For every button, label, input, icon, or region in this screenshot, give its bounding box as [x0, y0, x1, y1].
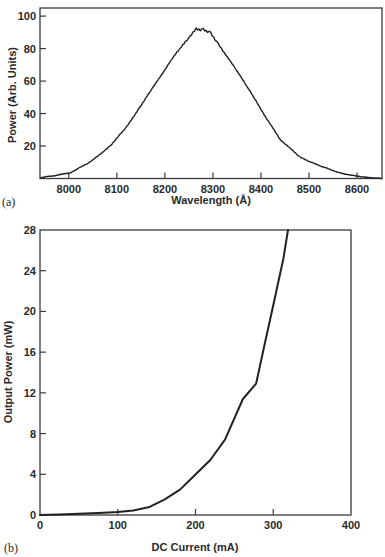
- y-tick-label: 16: [24, 346, 36, 358]
- x-tick-label: 8000: [57, 183, 81, 195]
- y-tick-label: 20: [24, 305, 36, 317]
- chart-b-y-ticks: 0481216202428: [24, 224, 46, 521]
- x-tick-label: 200: [186, 519, 204, 531]
- chart-b-y-axis-title: Output Power (mW): [2, 320, 14, 423]
- x-tick-label: 8600: [345, 183, 369, 195]
- y-tick-label: 60: [24, 75, 36, 87]
- y-tick-label: 12: [24, 387, 36, 399]
- chart-b: 0100200300400 0481216202428 DC Current (…: [2, 224, 360, 555]
- y-tick-label: 4: [30, 468, 37, 480]
- x-tick-label: 100: [109, 519, 127, 531]
- chart-b-x-axis-title: DC Current (mA): [152, 541, 239, 553]
- x-tick-label: 8500: [297, 183, 321, 195]
- figure: 8000810082008300840085008600 20406080100…: [0, 0, 385, 557]
- x-tick-label: 8200: [153, 183, 177, 195]
- chart-b-li-curve: [40, 230, 288, 515]
- x-tick-label: 8400: [249, 183, 273, 195]
- y-tick-label: 8: [30, 428, 36, 440]
- x-tick-label: 400: [342, 519, 360, 531]
- x-tick-label: 0: [37, 519, 43, 531]
- chart-a: 8000810082008300840085008600 20406080100…: [2, 8, 382, 209]
- y-tick-label: 100: [18, 10, 36, 22]
- chart-a-x-axis-title: Wavelength (Å): [171, 194, 251, 206]
- y-tick-label: 40: [24, 108, 36, 120]
- chart-a-y-axis-title: Power (Arb. Units): [6, 47, 18, 143]
- y-tick-label: 24: [24, 265, 37, 277]
- chart-b-frame: [40, 230, 351, 515]
- chart-a-spectrum-line: [40, 28, 382, 179]
- y-tick-label: 80: [24, 43, 36, 55]
- y-tick-label: 20: [24, 140, 36, 152]
- y-tick-label: 0: [30, 509, 36, 521]
- x-tick-label: 300: [264, 519, 282, 531]
- y-tick-label: 28: [24, 224, 36, 236]
- chart-a-panel-label: (a): [2, 195, 15, 209]
- chart-b-panel-label: (b): [4, 541, 18, 555]
- chart-b-x-ticks: 0100200300400: [37, 509, 360, 531]
- chart-a-y-ticks: 20406080100: [18, 10, 46, 152]
- chart-a-x-ticks: 8000810082008300840085008600: [57, 173, 370, 195]
- x-tick-label: 8300: [201, 183, 225, 195]
- x-tick-label: 8100: [105, 183, 129, 195]
